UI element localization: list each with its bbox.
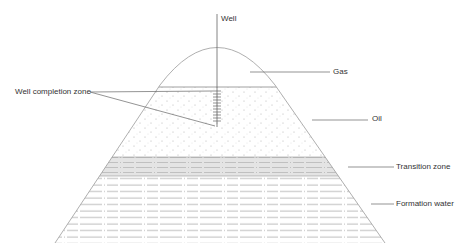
label-well-completion-zone: Well completion zone (15, 87, 91, 97)
label-gas: Gas (333, 67, 348, 77)
label-well: Well (221, 14, 236, 24)
label-formation-water: Formation water (396, 199, 454, 209)
label-transition-zone: Transition zone (396, 162, 450, 172)
oil-zone (0, 87, 466, 157)
label-oil: Oil (372, 114, 382, 124)
formation-water-zone (0, 176, 466, 243)
